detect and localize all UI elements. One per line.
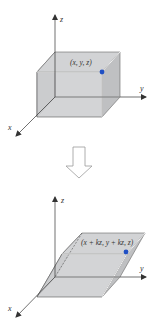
x-axis-label: x: [7, 123, 12, 132]
bottom-diagram: z y x (x + kz, y + kz, z): [7, 196, 146, 317]
shear-transformation-figure: z y x (x, y, z): [0, 0, 157, 326]
x-axis-label: x: [7, 304, 12, 313]
top-diagram: z y x (x, y, z): [7, 15, 146, 136]
transition-arrow: [66, 147, 92, 178]
y-axis-label: y: [139, 264, 144, 273]
point-marker: [100, 70, 105, 75]
z-axis-label: z: [60, 196, 65, 205]
point-label: (x, y, z): [70, 58, 92, 67]
point-marker: [124, 250, 129, 255]
y-axis-label: y: [139, 84, 144, 93]
z-axis-label: z: [59, 15, 64, 24]
point-label: (x + kz, y + kz, z): [81, 238, 134, 247]
